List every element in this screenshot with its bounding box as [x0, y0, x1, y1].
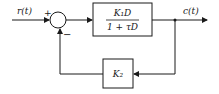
- minus-sign: −: [63, 29, 71, 40]
- summing-junction: [50, 12, 66, 28]
- block-diagram: r(t) + − K₁D 1 + τD c(t) K₂: [0, 0, 219, 94]
- feedback-label: K₂: [112, 69, 124, 79]
- input-label: r(t): [17, 6, 32, 16]
- output-label: c(t): [183, 6, 199, 16]
- forward-numerator: K₁D: [113, 8, 132, 18]
- forward-denominator: 1 + τD: [107, 22, 138, 32]
